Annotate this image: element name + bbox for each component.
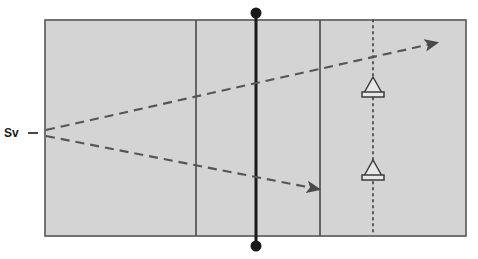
source-label: Sv (4, 126, 19, 140)
receiver-base-bar (362, 175, 384, 180)
seismic-survey-diagram: Sv (0, 0, 478, 259)
node-dot-bottom (251, 241, 262, 252)
node-dot-top (251, 8, 262, 19)
receiver-base-bar (362, 92, 384, 97)
diagram-canvas: Sv (0, 0, 478, 259)
